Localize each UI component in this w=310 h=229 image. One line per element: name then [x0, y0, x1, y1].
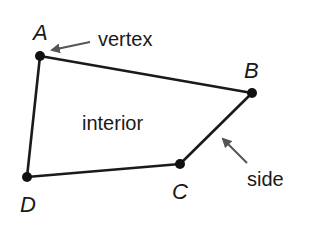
polygon-diagram: A B C D vertex interior side — [0, 0, 310, 229]
interior-caption: interior — [82, 112, 143, 134]
vertex-arrow-icon — [52, 42, 90, 50]
vertex-caption: vertex — [98, 28, 152, 50]
vertex-label-c: C — [172, 179, 188, 204]
vertex-point-c — [175, 159, 185, 169]
vertex-point-d — [22, 172, 32, 182]
side-arrow-icon — [223, 139, 247, 163]
vertex-point-a — [35, 51, 45, 61]
vertex-label-b: B — [244, 58, 259, 83]
vertex-label-d: D — [20, 192, 36, 217]
vertex-point-b — [247, 88, 257, 98]
side-caption: side — [247, 168, 284, 190]
vertex-label-a: A — [31, 20, 48, 45]
